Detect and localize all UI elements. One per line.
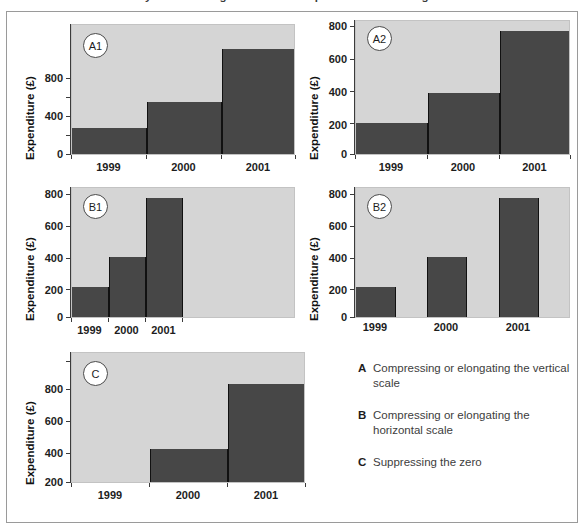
- chart-a1-badge: A1: [83, 33, 108, 58]
- chart-c-ytick-800: 800: [33, 384, 63, 395]
- chart-a1-ytick-0: 0: [33, 149, 63, 160]
- chart-b1-xtick-0: [71, 318, 72, 322]
- chart-a2-xtick-2: [499, 155, 500, 159]
- legend-key-b: B: [358, 408, 366, 423]
- chart-a1-ytick-400: 400: [33, 111, 63, 122]
- chart-a1-xlabel-2000: 2000: [146, 162, 221, 173]
- chart-b2-bar-1999: [356, 287, 396, 317]
- chart-b2-badge: B2: [367, 194, 392, 219]
- chart-b1-ytick-800: 800: [33, 189, 63, 200]
- chart-a2-bar-2000: [428, 93, 500, 154]
- chart-b2-xlabel-2001: 2001: [498, 322, 538, 333]
- chart-b1-xlabel-1999: 1999: [71, 325, 108, 336]
- chart-c-badge: C: [83, 361, 108, 386]
- chart-a2-xlabel-2000: 2000: [427, 162, 499, 173]
- legend-key-c: C: [358, 455, 366, 470]
- chart-b1: Expenditure (£) 800 600 400 200 0 1999 2…: [7, 180, 297, 340]
- chart-b1-bar-2001: [146, 198, 183, 317]
- chart-b1-ytick-0: 0: [33, 312, 63, 323]
- figure-caption: FIGURE 10.1 The main ways of distorting …: [6, 0, 581, 4]
- chart-a1: Expenditure (£) 800 400 0 1999 2000 2001…: [7, 12, 297, 187]
- chart-c-bar-2001: [228, 384, 305, 482]
- chart-b2-xlabel-2000: 2000: [426, 322, 466, 333]
- chart-b2-ytick-200: 200: [317, 285, 347, 296]
- chart-c-bar-2000: [150, 449, 228, 482]
- chart-a1-ytick-800: 800: [33, 73, 63, 84]
- chart-a1-xlabel-2001: 2001: [221, 162, 295, 173]
- chart-b2: Expenditure (£) 800 600 400 200 0 1999 2…: [297, 180, 579, 340]
- chart-c-xlabel-2001: 2001: [227, 490, 305, 501]
- chart-c-y-axis-title: Expenditure (£): [25, 401, 37, 485]
- chart-a2: Expenditure (£) 800 600 400 200 0 1999 2…: [297, 12, 579, 187]
- chart-b2-ytick-0: 0: [317, 312, 347, 323]
- chart-b1-ytick-200: 200: [33, 285, 63, 296]
- chart-b2-xlabel-1999: 1999: [355, 322, 395, 333]
- chart-a2-xlabel-2001: 2001: [499, 162, 570, 173]
- legend-text-b: Compressing or elongating the horizontal…: [373, 409, 530, 436]
- chart-c-ytick-600: 600: [33, 416, 63, 427]
- chart-a2-bar-2001: [500, 31, 570, 154]
- chart-b1-xlabel-2000: 2000: [108, 325, 145, 336]
- chart-b1-bar-1999: [72, 287, 109, 317]
- legend-item-b: B Compressing or elongating the horizont…: [358, 408, 573, 438]
- chart-a1-xtick-3: [295, 155, 296, 159]
- chart-a1-bar-2000: [147, 102, 222, 154]
- chart-a2-xtick-1: [427, 155, 428, 159]
- legend-item-c: C Suppressing the zero: [358, 455, 573, 470]
- chart-b2-ytick-800: 800: [317, 189, 347, 200]
- chart-b2-ytick-400: 400: [317, 253, 347, 264]
- chart-b2-ytick-600: 600: [317, 221, 347, 232]
- chart-b1-bar-2000: [109, 257, 146, 317]
- chart-c-xtick-1: [149, 483, 150, 487]
- chart-c-xlabel-1999: 1999: [71, 490, 149, 501]
- chart-c-xtick-2: [227, 483, 228, 487]
- chart-b1-y-axis-title: Expenditure (£): [25, 237, 37, 321]
- chart-a2-ytick-800: 800: [317, 21, 347, 32]
- chart-b1-ytick-400: 400: [33, 253, 63, 264]
- chart-c-xtick-3: [305, 483, 306, 487]
- chart-b1-badge: B1: [83, 194, 108, 219]
- figure-frame: Expenditure (£) 800 400 0 1999 2000 2001…: [6, 11, 578, 523]
- legend-text-a: Compressing or elongating the vertical s…: [373, 362, 569, 389]
- chart-b1-ytick-600: 600: [33, 221, 63, 232]
- chart-c-ytick-200: 200: [33, 477, 63, 488]
- chart-a2-xtick-3: [570, 155, 571, 159]
- chart-b2-bar-2000: [427, 257, 467, 317]
- chart-a2-ytick-400: 400: [317, 87, 347, 98]
- chart-c-ytick-400: 400: [33, 448, 63, 459]
- chart-a2-xlabel-1999: 1999: [355, 162, 427, 173]
- chart-b1-xtick-2: [145, 318, 146, 322]
- chart-b1-xtick-1: [108, 318, 109, 322]
- chart-c-xlabel-2000: 2000: [149, 490, 227, 501]
- chart-a1-xtick-1: [146, 155, 147, 159]
- chart-a1-bar-2001: [222, 49, 295, 154]
- chart-c-xtick-0: [71, 483, 72, 487]
- chart-a1-xtick-0: [71, 155, 72, 159]
- chart-b1-xlabel-2001: 2001: [145, 325, 182, 336]
- legend-item-a: A Compressing or elongating the vertical…: [358, 361, 573, 391]
- chart-a2-ytick-200: 200: [317, 120, 347, 131]
- chart-a2-bar-1999: [356, 123, 428, 154]
- chart-a1-bar-1999: [72, 128, 147, 154]
- chart-a2-badge: A2: [367, 26, 392, 51]
- chart-a1-xlabel-1999: 1999: [71, 162, 146, 173]
- chart-b2-y-axis-title: Expenditure (£): [309, 237, 321, 321]
- legend-text-c: Suppressing the zero: [373, 456, 482, 468]
- chart-b2-bar-2001: [499, 198, 539, 317]
- chart-c: Expenditure (£) 800 600 400 200 1999 200…: [7, 342, 307, 517]
- chart-a2-ytick-600: 600: [317, 54, 347, 65]
- chart-a2-ytick-0: 0: [317, 149, 347, 160]
- chart-a2-xtick-0: [355, 155, 356, 159]
- legend-key-a: A: [358, 361, 366, 376]
- legend: A Compressing or elongating the vertical…: [358, 361, 573, 487]
- chart-a1-xtick-2: [221, 155, 222, 159]
- chart-b1-xtick-3: [182, 318, 183, 322]
